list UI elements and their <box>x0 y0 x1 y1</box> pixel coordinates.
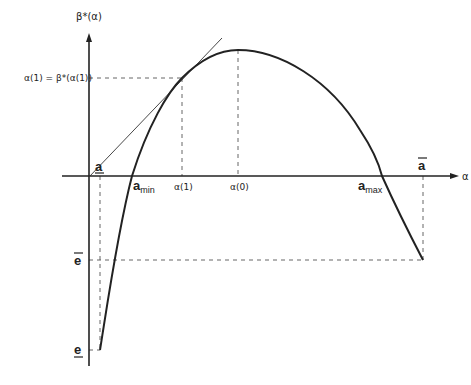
y-axis-arrow-icon <box>86 33 92 42</box>
tick-alpha0: α(0) <box>230 182 249 192</box>
tangent-line <box>89 38 222 177</box>
beta-star-curve <box>100 50 423 350</box>
diagram-canvas: β*(α) α α(1) = β*(α(1)) a amin α(1) α(0)… <box>0 0 471 385</box>
guide-lines <box>89 50 423 350</box>
tick-e-bar: e <box>74 253 81 268</box>
y-annotation-alpha1: α(1) = β*(α(1)) <box>24 73 92 83</box>
y-axis-label: β*(α) <box>76 11 102 22</box>
tick-a-bar: a <box>418 158 426 173</box>
x-axis-label: α <box>462 171 469 182</box>
x-axis-arrow-icon <box>450 173 459 179</box>
tick-a-under: a <box>95 159 103 174</box>
tick-alpha1: α(1) <box>174 182 193 192</box>
tick-e-under: e <box>74 342 81 357</box>
tick-a-max: amax <box>358 178 383 195</box>
tick-a-min: amin <box>133 178 155 195</box>
